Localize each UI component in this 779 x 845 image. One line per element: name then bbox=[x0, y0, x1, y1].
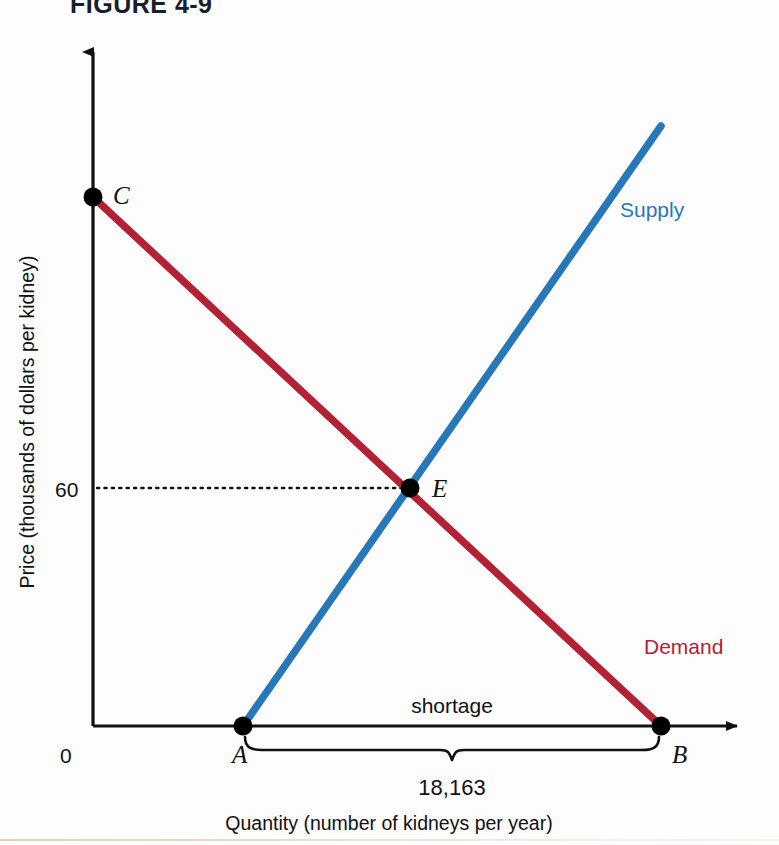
point-c-label: C bbox=[113, 182, 130, 209]
point-c-marker bbox=[84, 188, 103, 207]
supply-curve-label: Supply bbox=[620, 198, 685, 221]
y-tick-label-60: 60 bbox=[55, 478, 78, 501]
y-axis-title: Price (thousands of dollars per kidney) bbox=[16, 256, 38, 589]
supply-demand-chart: C E A B 0 60 Supply Demand shortage 18,1… bbox=[0, 0, 779, 845]
page-bottom-rule bbox=[0, 839, 779, 841]
x-axis-title: Quantity (number of kidneys per year) bbox=[225, 812, 552, 834]
point-a-label: A bbox=[230, 741, 248, 768]
point-b-label: B bbox=[672, 741, 687, 768]
demand-curve-label: Demand bbox=[644, 635, 723, 658]
supply-curve bbox=[243, 126, 661, 726]
shortage-brace bbox=[245, 737, 659, 760]
origin-label: 0 bbox=[60, 744, 72, 767]
figure-container: FIGURE 4-9 C E A B 0 bbox=[0, 0, 779, 845]
shortage-amount-label: 18,163 bbox=[418, 775, 485, 800]
point-a-marker bbox=[234, 717, 253, 736]
point-e-marker bbox=[401, 479, 420, 498]
point-b-marker bbox=[652, 717, 671, 736]
shortage-label: shortage bbox=[411, 694, 493, 717]
point-e-label: E bbox=[431, 475, 447, 502]
demand-curve bbox=[93, 197, 661, 726]
